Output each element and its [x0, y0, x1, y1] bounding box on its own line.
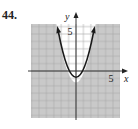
x-axis-label: x	[123, 73, 129, 84]
y-axis-label: y	[64, 11, 70, 22]
y-tick-label: 5	[68, 26, 73, 37]
inequality-graph: y 5 5 x	[0, 0, 138, 129]
x-tick-label: 5	[109, 73, 114, 84]
y-axis-arrow-icon	[74, 12, 79, 18]
